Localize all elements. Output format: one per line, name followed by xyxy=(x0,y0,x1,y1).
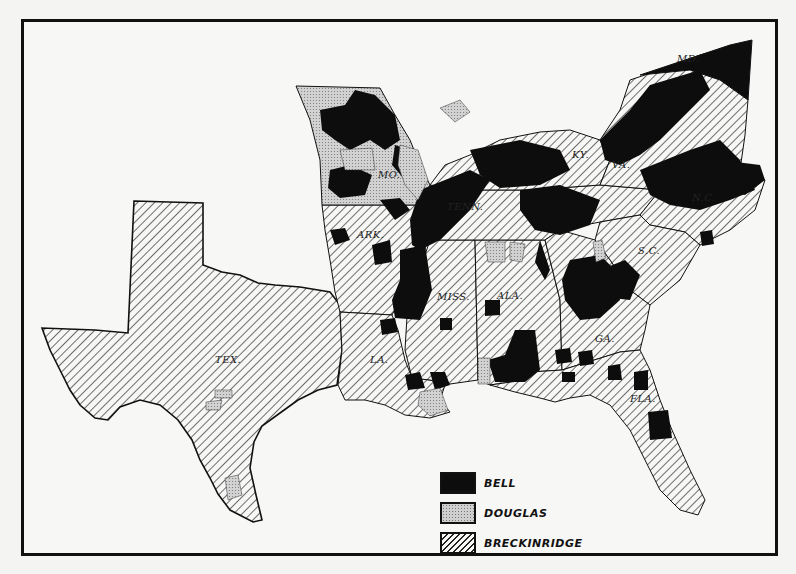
election-map: MD. KY. VA. MO. TENN. N.C. ARK. S.C. MIS… xyxy=(0,0,796,574)
label-tenn: TENN. xyxy=(447,201,484,212)
breckinridge-swatch xyxy=(440,532,476,554)
label-ala: ALA. xyxy=(496,290,523,301)
legend-label: BELL xyxy=(484,477,516,490)
douglas-swatch xyxy=(440,502,476,524)
label-ga: GA. xyxy=(595,333,615,344)
label-fla: FLA. xyxy=(629,393,656,404)
legend-item-breckinridge: BRECKINRIDGE xyxy=(440,528,583,558)
label-nc: N.C. xyxy=(691,192,716,203)
label-ark: ARK. xyxy=(356,229,384,240)
label-tex: TEX. xyxy=(215,354,241,365)
label-va: VA. xyxy=(612,159,630,170)
bell-swatch xyxy=(440,472,476,494)
legend-item-douglas: DOUGLAS xyxy=(440,498,583,528)
label-sc: S.C. xyxy=(638,245,660,256)
legend-item-bell: BELL xyxy=(440,468,583,498)
label-miss: MISS. xyxy=(436,291,470,302)
legend-label: DOUGLAS xyxy=(484,507,547,520)
legend-label: BRECKINRIDGE xyxy=(484,537,583,550)
label-mo: MO. xyxy=(377,169,401,180)
label-la: LA. xyxy=(369,354,389,365)
map-legend: BELL DOUGLAS BRECKINRIDGE xyxy=(440,468,583,558)
state-texas xyxy=(42,201,342,522)
label-md: MD. xyxy=(676,53,700,64)
label-ky: KY. xyxy=(571,149,589,160)
